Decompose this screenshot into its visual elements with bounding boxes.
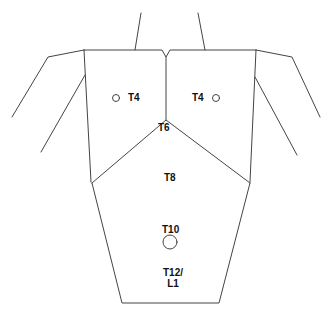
left-arm-inner <box>41 75 85 152</box>
torso-left-upper <box>84 50 91 182</box>
label-t8: T8 <box>164 172 176 183</box>
neck-line-left <box>135 13 141 50</box>
neck-line-right <box>198 13 205 50</box>
shoulder-line <box>84 50 256 57</box>
t4-left-marker <box>113 95 120 102</box>
right-arm-inner <box>255 77 297 155</box>
label-t12-l1: T12/ L1 <box>163 267 183 289</box>
label-t4-left: T4 <box>128 92 140 103</box>
torso-right-upper <box>250 50 256 182</box>
right-arm-outer <box>256 50 320 117</box>
left-arm-outer <box>12 50 84 117</box>
t4-right-marker <box>213 95 220 102</box>
label-t10: T10 <box>162 224 179 235</box>
t10-marker <box>163 235 177 249</box>
label-t4-right: T4 <box>192 92 204 103</box>
label-t6: T6 <box>158 122 170 133</box>
